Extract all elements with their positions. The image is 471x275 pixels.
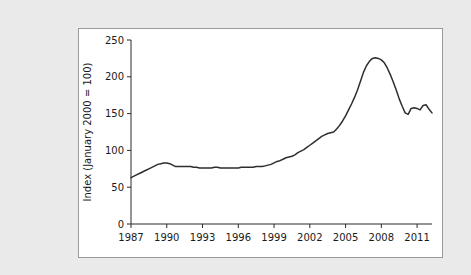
data-series-line: [131, 58, 432, 178]
x-tick-label: 1990: [154, 232, 179, 243]
x-tick-label: 1999: [261, 232, 286, 243]
y-tick-label: 0: [118, 219, 124, 230]
chart-page: 0501001502002501987199019931996199920022…: [0, 0, 471, 275]
x-tick-label: 1993: [190, 232, 215, 243]
y-tick-label: 50: [111, 182, 124, 193]
y-tick-label: 250: [105, 35, 124, 46]
x-tick-label: 2008: [369, 232, 394, 243]
y-tick-label: 200: [105, 71, 124, 82]
x-tick-label: 2011: [404, 232, 429, 243]
line-chart: 0501001502002501987199019931996199920022…: [79, 29, 442, 257]
y-axis-title: Index (January 2000 = 100): [82, 62, 93, 201]
y-tick-label: 150: [105, 108, 124, 119]
x-tick-label: 1987: [118, 232, 143, 243]
chart-panel: 0501001502002501987199019931996199920022…: [78, 28, 443, 258]
x-tick-label: 2002: [297, 232, 322, 243]
x-tick-label: 1996: [226, 232, 251, 243]
y-tick-label: 100: [105, 145, 124, 156]
x-tick-label: 2005: [333, 232, 358, 243]
